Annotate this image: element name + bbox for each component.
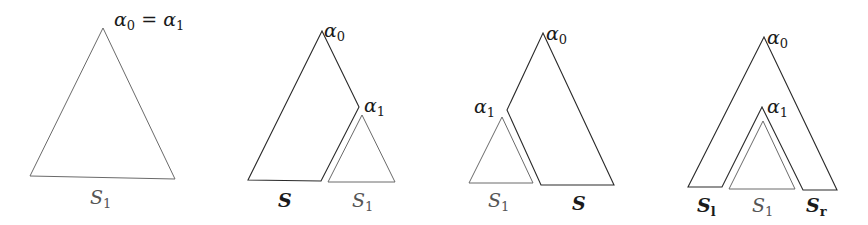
child-label-alpha1: α1 bbox=[474, 95, 495, 120]
root-label-alpha0: α0 bbox=[324, 19, 345, 44]
subtree-label-s1: S1 bbox=[90, 186, 111, 211]
subtree-triangle-s1 bbox=[469, 117, 533, 183]
subtree-triangle-s1 bbox=[30, 28, 175, 179]
child-label-alpha1: α1 bbox=[364, 94, 385, 119]
root-label-alpha0: α0 bbox=[767, 26, 788, 51]
remainder-label-s: S bbox=[572, 192, 586, 214]
tree-decomposition-diagram: α0 = α1 S1 α0 α1 S S1 α0 α1 S1 S bbox=[0, 0, 868, 225]
outer-shape-sl-sr bbox=[688, 37, 837, 190]
apex-label-alpha0-equals-alpha1: α0 = α1 bbox=[114, 8, 184, 33]
figure-case-1: α0 = α1 S1 bbox=[30, 8, 184, 211]
subtree-label-s1: S1 bbox=[488, 189, 509, 214]
left-label-sl: Sl bbox=[697, 194, 716, 219]
figure-case-3: α0 α1 S1 S bbox=[469, 22, 614, 214]
figure-case-2: α0 α1 S S1 bbox=[248, 19, 395, 214]
figure-case-4: α0 α1 Sl S1 Sr bbox=[688, 26, 837, 219]
subtree-label-s1: S1 bbox=[352, 189, 373, 214]
right-label-sr: Sr bbox=[806, 194, 827, 219]
subtree-label-s1: S1 bbox=[752, 194, 773, 219]
remainder-shape-s bbox=[248, 31, 359, 181]
child-label-alpha1: α1 bbox=[767, 95, 788, 120]
root-label-alpha0: α0 bbox=[546, 22, 567, 47]
remainder-label-s: S bbox=[278, 189, 292, 211]
